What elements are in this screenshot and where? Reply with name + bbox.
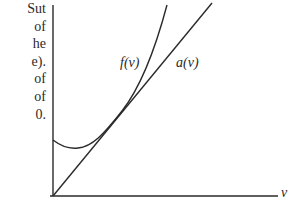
curve-f-of-v xyxy=(53,5,167,148)
curve-label: f(v) xyxy=(120,55,140,71)
line-label: a(v) xyxy=(176,55,199,71)
x-axis-label: v xyxy=(281,185,288,200)
line-a-of-v xyxy=(53,3,212,196)
function-diagram: f(v) a(v) v xyxy=(0,0,297,203)
